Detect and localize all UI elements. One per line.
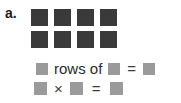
array-cell — [54, 31, 71, 48]
rows-of-equation: rows of = — [36, 61, 155, 76]
product-blank[interactable] — [110, 82, 123, 95]
equals-sign: = — [127, 61, 136, 76]
multiplication-sign: × — [54, 81, 63, 96]
rows-blank[interactable] — [36, 63, 48, 75]
array-cell — [31, 9, 48, 26]
array-model — [31, 9, 117, 48]
array-cell — [100, 31, 117, 48]
factor-two-blank[interactable] — [70, 82, 83, 95]
problem-label: a. — [5, 5, 17, 21]
array-cell — [100, 9, 117, 26]
total-blank[interactable] — [143, 63, 155, 75]
multiplication-equation: × = — [34, 81, 123, 96]
worksheet-problem: a. rows of = × = — [0, 0, 181, 103]
rows-of-text: rows of — [54, 61, 102, 76]
array-cell — [77, 31, 94, 48]
array-cell — [54, 9, 71, 26]
factor-one-blank[interactable] — [34, 82, 47, 95]
columns-blank[interactable] — [108, 63, 120, 75]
array-cell — [31, 31, 48, 48]
equals-sign: = — [92, 81, 101, 96]
array-cell — [77, 9, 94, 26]
